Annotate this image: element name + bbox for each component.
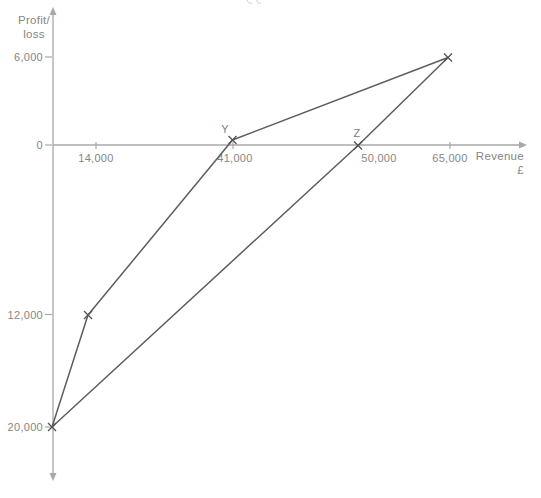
average-profit-line: [52, 58, 448, 428]
y-axis-title-line2: loss: [23, 28, 45, 40]
x-axis-right-arrow-icon: [519, 142, 527, 149]
data-point-marker-icon: [444, 54, 452, 62]
chart-canvas: 14,00041,00050,00065,0006,000012,00020,0…: [0, 0, 541, 498]
x-tick-label: 65,000: [432, 152, 467, 164]
y-axis-up-arrow-icon: [50, 7, 57, 15]
y-tick-label: 12,000: [8, 309, 43, 321]
cropped-text-fragment: [247, 0, 261, 3]
y-tick-label: 0: [37, 139, 43, 151]
x-tick-label: 50,000: [361, 152, 396, 164]
y-axis-down-arrow-icon: [50, 473, 57, 481]
x-axis-title: Revenue: [476, 150, 524, 162]
point-label-z: Z: [353, 127, 360, 139]
x-tick-label: 14,000: [78, 152, 113, 164]
point-label-y: Y: [221, 123, 229, 135]
y-tick-label: 6,000: [14, 51, 43, 63]
y-axis-title-line1: Profit/: [18, 14, 51, 26]
x-axis-currency-label: £: [517, 164, 524, 176]
y-tick-label: 20,000: [8, 421, 43, 433]
data-point-marker-icon: [84, 311, 92, 319]
x-tick-label: 41,000: [217, 152, 252, 164]
profit-volume-chart-figure: 14,00041,00050,00065,0006,000012,00020,0…: [0, 0, 541, 498]
